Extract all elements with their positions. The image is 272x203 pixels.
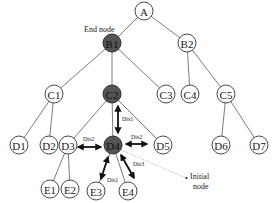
distance-arrow-D4-E3 [101, 157, 108, 179]
distance-label-C2-D4: Dis1 [122, 116, 133, 122]
node-label: C5 [220, 89, 233, 101]
node-D2: D2 [40, 136, 58, 154]
edge-B1-C3 [112, 43, 166, 94]
node-C5: C5 [217, 85, 235, 103]
distance-label-D3-D4: Dis2 [83, 136, 94, 142]
node-label: C2 [106, 89, 119, 101]
node-label: D6 [214, 140, 228, 152]
node-A: A [135, 2, 153, 20]
node-label: B2 [181, 38, 194, 50]
node-D3: D3 [59, 136, 77, 154]
node-label: D7 [252, 140, 266, 152]
node-D5: D5 [154, 136, 172, 154]
distance-label-D4-E3: Dis1 [107, 177, 118, 183]
nodes: AB1B2C1C2C3C4C5D1D2D3D4D5D6D7E1E2E3E4 [10, 2, 268, 200]
node-label: C1 [48, 89, 61, 101]
node-label: C4 [184, 89, 197, 101]
node-label: D4 [106, 140, 120, 152]
node-D4: D4 [104, 136, 122, 154]
node-E2: E2 [61, 180, 79, 198]
distance-label-D4-E4: Dis3 [133, 161, 144, 167]
end-node-label: End node [84, 25, 115, 34]
node-E3: E3 [87, 182, 105, 200]
node-label: C3 [160, 89, 173, 101]
node-B1: B1 [103, 34, 121, 52]
node-C1: C1 [45, 85, 63, 103]
initial-node-label-line1: Initial [190, 172, 210, 181]
node-B2: B2 [178, 34, 196, 52]
node-label: D1 [12, 140, 25, 152]
node-label: D2 [42, 140, 55, 152]
tree-diagram: Dis1Dis2Dis2Dis1Dis3 AB1B2C1C2C3C4C5D1D2… [0, 0, 272, 203]
edge-B1-C1 [54, 43, 112, 94]
node-E4: E4 [119, 182, 137, 200]
initial-node-bullet: • [185, 174, 188, 183]
node-label: E3 [90, 186, 103, 198]
node-C4: C4 [181, 85, 199, 103]
node-D1: D1 [10, 136, 28, 154]
node-D6: D6 [212, 136, 230, 154]
node-E1: E1 [41, 180, 59, 198]
node-D7: D7 [250, 136, 268, 154]
node-C2: C2 [103, 85, 121, 103]
node-label: E4 [122, 186, 135, 198]
node-label: A [140, 6, 148, 18]
node-label: B1 [106, 38, 119, 50]
initial-node-label-line2: node [193, 182, 209, 191]
node-label: E2 [64, 184, 76, 196]
node-label: E1 [44, 184, 56, 196]
node-label: D3 [61, 140, 75, 152]
distance-label-D4-D5: Dis2 [131, 134, 142, 140]
node-C3: C3 [157, 85, 175, 103]
node-label: D5 [156, 140, 170, 152]
